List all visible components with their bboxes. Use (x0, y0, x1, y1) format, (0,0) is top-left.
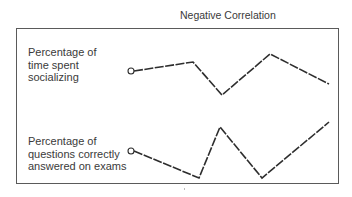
exam-score-line (134, 122, 329, 178)
scan-mark (184, 188, 185, 190)
socializing-line (134, 54, 329, 95)
plot-area (0, 0, 352, 197)
exam-score-start-marker (128, 148, 134, 154)
socializing-start-marker (128, 68, 134, 74)
